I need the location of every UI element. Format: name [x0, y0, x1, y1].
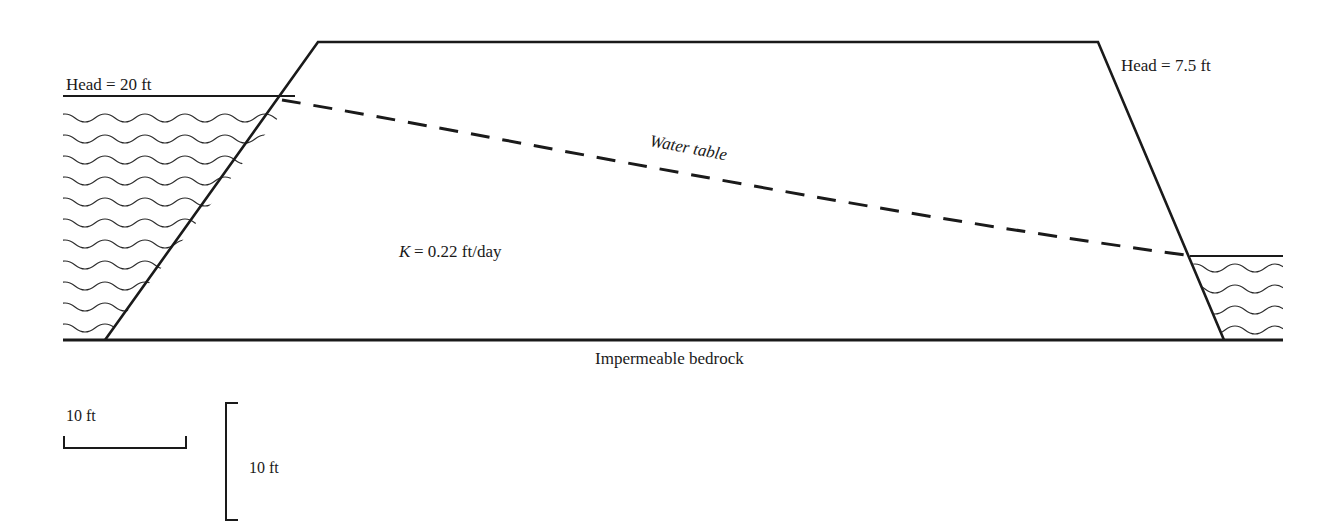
- cross-section-drawing: Head = 20 ft Head = 7.5 ft K = 0.22 ft/d…: [0, 0, 1339, 525]
- vertical-scale-label: 10 ft: [249, 459, 279, 476]
- conductivity-value: = 0.22 ft/day: [414, 242, 502, 261]
- bedrock-label: Impermeable bedrock: [595, 349, 744, 368]
- conductivity-symbol: K: [398, 242, 412, 261]
- head-left-label: Head = 20 ft: [66, 75, 152, 94]
- dam-cross-section-figure: Head = 20 ft Head = 7.5 ft K = 0.22 ft/d…: [0, 0, 1339, 525]
- vertical-scale-bar: 10 ft: [226, 403, 279, 520]
- upstream-reservoir-waves: [55, 114, 315, 332]
- water-table-line: [282, 100, 1192, 256]
- horizontal-scale-bar: 10 ft: [64, 407, 186, 448]
- vertical-scale-bracket: [226, 403, 238, 520]
- horizontal-scale-label: 10 ft: [66, 407, 96, 424]
- water-table-label: Water table: [648, 131, 729, 164]
- downstream-pool-waves: [1185, 264, 1305, 334]
- conductivity-label: K = 0.22 ft/day: [398, 242, 502, 261]
- dam-embankment-outline: [105, 42, 1224, 340]
- head-right-label: Head = 7.5 ft: [1121, 56, 1211, 75]
- horizontal-scale-bracket: [64, 436, 186, 448]
